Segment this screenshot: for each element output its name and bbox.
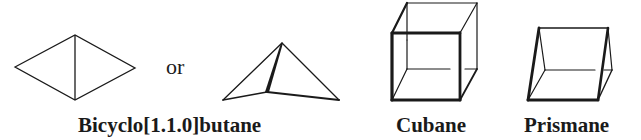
cubane-label: Cubane xyxy=(396,115,466,136)
cubane-structure xyxy=(392,3,477,100)
bicyclobutane-3d-structure xyxy=(223,43,339,100)
prismane-label: Prismane xyxy=(524,115,609,136)
or-connector-text: or xyxy=(166,56,184,78)
prismane-structure xyxy=(528,28,612,100)
bicyclobutane-2d-structure xyxy=(15,35,135,100)
bicyclobutane-label: Bicyclo[1.1.0]butane xyxy=(78,115,261,136)
